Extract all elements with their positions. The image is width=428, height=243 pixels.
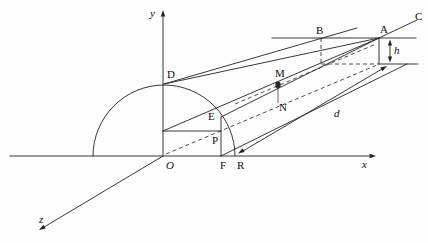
point-label-D: D xyxy=(167,68,175,80)
label-y-axis: y xyxy=(149,7,155,19)
point-label-F: F xyxy=(220,159,226,171)
diagram-container: y x z O D E P F R M N B A C h d xyxy=(0,0,428,243)
h-arrow-down-icon xyxy=(388,57,392,63)
dimension-label-d: d xyxy=(334,107,340,119)
point-label-A: A xyxy=(380,23,388,35)
plank-bottom-edge-from-F xyxy=(221,64,407,156)
point-label-R: R xyxy=(237,159,245,171)
y-axis-arrow-icon xyxy=(161,10,165,17)
line-D-to-A xyxy=(164,38,379,84)
point-label-E: E xyxy=(208,110,215,122)
z-axis-arrow-icon xyxy=(39,225,46,230)
point-label-N: N xyxy=(279,101,287,113)
dashed-line-from-O xyxy=(166,65,377,154)
line-D-through-B xyxy=(164,28,357,84)
point-label-M: M xyxy=(275,67,285,79)
label-x-axis: x xyxy=(361,158,367,170)
point-label-B: B xyxy=(316,24,323,36)
d-arrow-upper-icon xyxy=(380,66,387,71)
dimension-label-h: h xyxy=(394,44,400,56)
mass-ball xyxy=(275,82,280,89)
plank-top-back-edge-E-A xyxy=(221,38,379,117)
geometry-diagram: y x z O D E P F R M N B A C h d xyxy=(0,0,428,243)
label-origin: O xyxy=(166,159,174,171)
d-dimension-line xyxy=(243,69,382,151)
z-axis-line xyxy=(45,156,163,227)
h-arrow-up-icon xyxy=(388,40,392,46)
point-label-C: C xyxy=(415,10,422,22)
d-arrow-lower-icon xyxy=(238,148,245,153)
point-label-P: P xyxy=(212,134,218,146)
plank-top-front-edge xyxy=(163,38,379,131)
x-axis-arrow-icon xyxy=(370,154,377,158)
label-z-axis: z xyxy=(38,213,44,225)
